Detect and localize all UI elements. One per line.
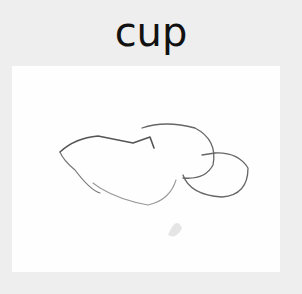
- sketch-stroke-top-right: [142, 124, 214, 178]
- smudge: [168, 223, 182, 237]
- sketch-stroke-bottom: [93, 180, 176, 205]
- sketch-stroke-top-left: [60, 136, 154, 152]
- sketch-stroke-left: [60, 152, 100, 193]
- sketch-drawing: [0, 0, 302, 294]
- sketch-stroke-handle: [183, 153, 248, 197]
